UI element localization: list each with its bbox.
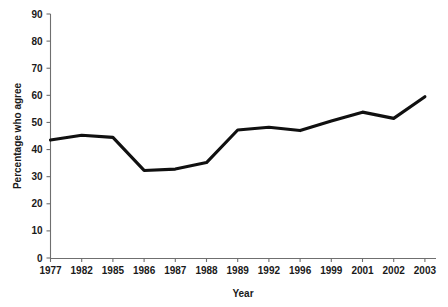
x-axis-title: Year xyxy=(232,288,253,299)
y-tick-label: 30 xyxy=(31,171,43,182)
y-tick-label: 10 xyxy=(31,225,43,236)
y-axis-title: Percentage who agree xyxy=(12,82,23,189)
y-tick-label: 0 xyxy=(37,253,43,264)
y-tick-label: 50 xyxy=(31,117,43,128)
x-tick-label: 1982 xyxy=(71,265,94,276)
y-tick-label: 70 xyxy=(31,63,43,74)
chart-canvas: 0102030405060708090 Percentage who agree… xyxy=(0,0,448,307)
x-tick-label: 1989 xyxy=(227,265,250,276)
x-tick-label: 2002 xyxy=(383,265,406,276)
y-tick-label: 60 xyxy=(31,90,43,101)
x-tick-label: 1986 xyxy=(133,265,156,276)
x-tick-label: 1992 xyxy=(258,265,281,276)
y-tick-label: 20 xyxy=(31,198,43,209)
y-tick-label: 80 xyxy=(31,36,43,47)
x-tick-label: 1977 xyxy=(39,265,62,276)
x-tick-label: 1985 xyxy=(102,265,125,276)
chart-background xyxy=(0,0,448,307)
x-tick-label: 1987 xyxy=(164,265,187,276)
line-chart-figure: 0102030405060708090 Percentage who agree… xyxy=(0,0,448,307)
x-tick-label: 1988 xyxy=(195,265,218,276)
x-tick-label: 2003 xyxy=(414,265,437,276)
x-tick-label: 2001 xyxy=(351,265,374,276)
y-tick-label: 90 xyxy=(31,9,43,20)
y-tick-label: 40 xyxy=(31,144,43,155)
x-tick-label: 1996 xyxy=(289,265,312,276)
x-tick-label: 1999 xyxy=(320,265,343,276)
